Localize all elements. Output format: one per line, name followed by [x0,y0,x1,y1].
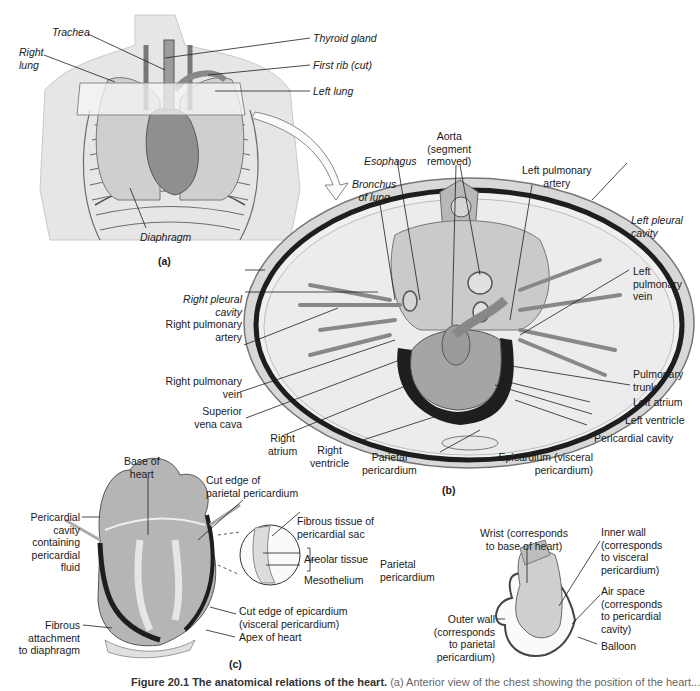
label-superior-vena-cava: Superior vena cava [180,405,242,430]
label-line: pericardium) [418,651,495,664]
label-right-pulmonary-artery: Right pulmonary artery [150,318,242,343]
label-left-lung: Left lung [313,85,353,98]
torso-figure [40,15,348,240]
label-line: (corresponds [601,598,662,611]
label-line: vein [633,290,682,303]
label-line: (corresponds [601,539,662,552]
label-line: pericardium) [480,464,593,477]
label-thyroid-gland: Thyroid gland [313,32,377,45]
label-line: Fibrous tissue of [297,515,374,528]
panel-tag-a: (a) [158,255,171,267]
label-aorta: Aorta (segment removed) [427,130,471,168]
label-wrist: Wrist (corresponds to base of heart) [480,527,568,552]
label-line: to visceral [601,551,662,564]
label-line: Left pleural [631,214,683,227]
label-right-atrium: Right atrium [268,432,297,457]
label-line: Right [19,46,44,59]
label-outer-wall: Outer wall (corresponds to parietal peri… [418,613,495,663]
label-line: Pulmonary [633,368,683,381]
label-line: Right [268,432,297,445]
balloon-analogy-figure [496,540,575,656]
label-right-lung: Right lung [19,46,44,71]
label-line: Epicardium (visceral [480,451,593,464]
label-esophagus: Esophagus [364,155,417,168]
label-line: (segment [427,143,471,156]
label-line: Left pulmonary [522,164,591,177]
label-line: lung [19,59,44,72]
label-line: trunk [633,381,683,394]
label-line: artery [522,177,591,190]
label-left-ventricle: Left ventricle [625,414,685,427]
label-line: Parietal [362,451,417,464]
label-line: artery [150,331,242,344]
label-inner-wall: Inner wall (corresponds to visceral peri… [601,526,662,576]
label-line: pulmonary [633,278,682,291]
label-line: parietal pericardium [206,487,298,500]
figure-caption: Figure 20.1 The anatomical relations of … [131,676,700,688]
label-parietal-pericardium-b: Parietal pericardium [362,451,417,476]
label-line: Right pleural [160,293,242,306]
label-air-space: Air space (corresponds to pericardial ca… [601,585,662,635]
label-line: Parietal [380,558,435,571]
label-line: Right [310,444,349,457]
label-right-ventricle: Right ventricle [310,444,349,469]
label-line: (corresponds [418,626,495,639]
label-right-pleural-cavity: Right pleural cavity [160,293,242,318]
label-trachea: Trachea [52,26,90,39]
label-line: Right pulmonary [150,375,242,388]
label-first-rib: First rib (cut) [313,59,372,72]
label-left-pleural-cavity: Left pleural cavity [631,214,683,239]
label-line: cavity [631,227,683,240]
label-diaphragm: Diaphragm [140,231,191,244]
label-line: Cut edge of epicardium [239,605,348,618]
label-line: to pericardial [601,610,662,623]
label-bronchus: Bronchus of lung [352,178,396,203]
label-cut-edge-parietal: Cut edge of parietal pericardium [206,474,298,499]
label-fibrous-tissue: Fibrous tissue of pericardial sac [297,515,374,540]
caption-text: (a) Anterior view of the chest showing t… [387,676,700,688]
label-epicardium: Epicardium (visceral pericardium) [480,451,593,476]
label-right-pulmonary-vein: Right pulmonary vein [150,375,242,400]
label-line: fluid [10,561,80,574]
label-line: Fibrous [5,619,80,632]
label-line: to diaphragm [5,644,80,657]
label-line: vein [150,388,242,401]
label-line: of lung [352,191,396,204]
label-line: Bronchus [352,178,396,191]
label-line: to base of heart) [480,540,568,553]
label-line: ventricle [310,457,349,470]
label-line: Right pulmonary [150,318,242,331]
panel-tag-b: (b) [442,484,455,496]
label-line: containing [10,536,80,549]
label-line: Base of [124,455,160,468]
label-left-atrium: Left atrium [633,396,683,409]
label-line: Air space [601,585,662,598]
label-line: Left [633,265,682,278]
label-parietal-pericardium-c: Parietal pericardium [380,558,435,583]
label-line: removed) [427,155,471,168]
label-cut-edge-epicardium: Cut edge of epicardium (visceral pericar… [239,605,348,630]
label-line: cavity [160,306,242,319]
label-mesothelium: Mesothelium [304,574,364,587]
label-line: pericardium [380,571,435,584]
label-line: Aorta [427,130,471,143]
label-pericardial-cavity: Pericardial cavity [594,432,673,445]
caption-title: Figure 20.1 The anatomical relations of … [131,676,387,688]
label-left-pulmonary-vein: Left pulmonary vein [633,265,682,303]
label-balloon: Balloon [601,640,636,653]
label-line: pericardial [10,549,80,562]
label-line: attachment [5,632,80,645]
label-base-of-heart: Base of heart [124,455,160,480]
label-line: pericardium [362,464,417,477]
label-pericardial-cavity-fluid: Pericardial cavity containing pericardia… [10,511,80,574]
label-line: cavity [10,524,80,537]
label-line: vena cava [180,418,242,431]
label-fibrous-attachment: Fibrous attachment to diaphragm [5,619,80,657]
label-line: Pericardial [10,511,80,524]
label-line: Outer wall [418,613,495,626]
label-line: atrium [268,445,297,458]
label-left-pulmonary-artery: Left pulmonary artery [522,164,591,189]
label-line: pericardial sac [297,528,374,541]
label-line: cavity) [601,623,662,636]
